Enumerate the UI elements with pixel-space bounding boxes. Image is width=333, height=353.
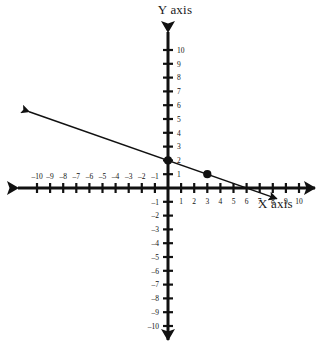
y-tick-label: –9 xyxy=(151,308,160,317)
y-tick-label: 7 xyxy=(177,87,181,96)
x-tick-label: –9 xyxy=(45,172,54,181)
x-tick-label: –6 xyxy=(85,172,94,181)
y-tick-label: –5 xyxy=(151,253,160,262)
y-tick-label: –7 xyxy=(151,280,160,289)
x-tick-label: –8 xyxy=(58,172,67,181)
x-tick-label: –5 xyxy=(98,172,107,181)
x-tick-label: 6 xyxy=(245,197,249,206)
x-tick-label: –3 xyxy=(124,172,133,181)
y-tick-label: 6 xyxy=(177,101,181,110)
x-tick-label: –2 xyxy=(137,172,146,181)
y-tick-label: –1 xyxy=(151,198,160,207)
line-segment xyxy=(29,112,277,199)
x-tick-label: 1 xyxy=(179,197,183,206)
data-point xyxy=(203,170,211,178)
y-tick-label: –2 xyxy=(151,211,160,220)
y-tick-label: 9 xyxy=(177,60,181,69)
coordinate-plane-graph: –10–9–8–7–6–5–4–3–2–112345678910 1234567… xyxy=(0,0,333,353)
y-tick-label: 8 xyxy=(177,73,181,82)
x-tick-label: 4 xyxy=(219,197,223,206)
y-tick-label: –8 xyxy=(151,294,160,303)
y-tick-label: 10 xyxy=(177,46,185,55)
y-tick-label: 4 xyxy=(177,129,181,138)
x-tick-label: 5 xyxy=(232,197,236,206)
y-tick-label: 3 xyxy=(177,142,181,151)
x-tick-label: 2 xyxy=(192,197,196,206)
x-tick-label: –10 xyxy=(30,172,43,181)
graph-canvas: –10–9–8–7–6–5–4–3–2–112345678910 1234567… xyxy=(0,0,333,353)
x-tick-label: –1 xyxy=(150,172,159,181)
y-tick-label: –6 xyxy=(151,267,160,276)
x-tick-label: –4 xyxy=(111,172,120,181)
y-tick-label: 2 xyxy=(177,156,181,165)
x-tick-label: 3 xyxy=(205,197,209,206)
data-point xyxy=(164,156,172,164)
y-tick-label: –3 xyxy=(151,225,160,234)
y-axis-title: Y axis xyxy=(130,2,220,18)
y-tick-label: –4 xyxy=(151,239,160,248)
x-axis-title: X axis xyxy=(258,196,328,212)
y-tick-label: –10 xyxy=(147,322,160,331)
plotted-line xyxy=(29,112,277,199)
x-tick-label: –7 xyxy=(72,172,81,181)
y-tick-label: 1 xyxy=(177,170,181,179)
y-tick-label: 5 xyxy=(177,115,181,124)
